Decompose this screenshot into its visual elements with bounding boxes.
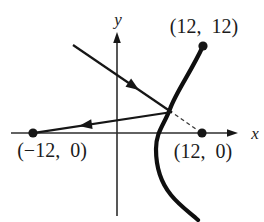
incident-ray <box>73 45 172 113</box>
left-focus-label: (−12, 0) <box>17 139 87 162</box>
dashed-segment-to-focus <box>175 115 198 131</box>
curve-endpoint-dot <box>198 41 207 50</box>
right-focus-label: (12, 0) <box>174 140 232 163</box>
reflected-ray <box>36 112 172 133</box>
hyperbola-reflection-figure: y x (12, 12) (−12, 0) (12, 0) <box>0 0 264 222</box>
curve-endpoint-label: (12, 12) <box>170 15 238 38</box>
left-focus-dot <box>28 128 37 137</box>
y-axis-label: y <box>112 10 122 29</box>
incident-ray-arrowhead-icon <box>126 79 140 90</box>
figure-canvas: y x (12, 12) (−12, 0) (12, 0) <box>0 0 264 222</box>
x-axis-arrowhead-icon <box>227 129 238 137</box>
x-axis-label: x <box>250 124 259 143</box>
y-axis-arrowhead-icon <box>113 32 121 43</box>
reflected-ray-arrowhead-icon <box>79 119 93 129</box>
right-focus-dot <box>197 128 206 137</box>
